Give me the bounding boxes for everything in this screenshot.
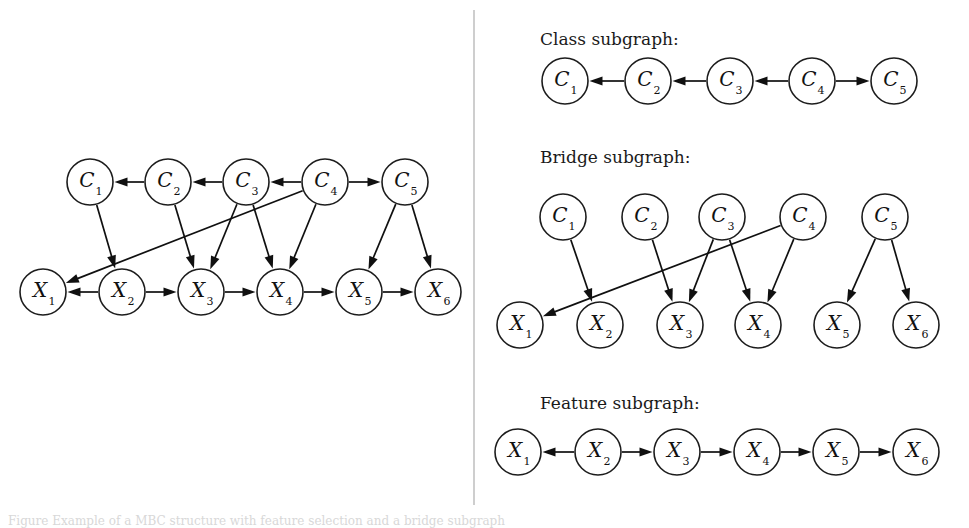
node-label-base: X	[31, 278, 48, 302]
graph-node-x4[interactable]: X4	[734, 429, 780, 475]
graph-node-x6[interactable]: X6	[893, 429, 939, 475]
node-label-base: C	[634, 203, 649, 227]
node-label-base: C	[314, 168, 329, 192]
graph-node-c3[interactable]: C3	[223, 159, 269, 205]
bridge-subgraph: Bridge subgraph:C1C2C3C4C5X1X2X3X4X5X6	[497, 147, 939, 348]
node-label-base: C	[792, 203, 807, 227]
node-label-subscript: 5	[843, 328, 850, 341]
edge-c1-to-x2	[571, 240, 592, 302]
graph-node-c5[interactable]: C5	[862, 194, 908, 240]
edge-c2-to-c1	[590, 77, 625, 86]
node-label-base: X	[665, 438, 682, 462]
node-label-subscript: 1	[96, 185, 103, 198]
feature-subgraph: Feature subgraph:X1X2X3X4X5X6	[495, 393, 939, 475]
graph-node-c5[interactable]: C5	[871, 58, 917, 104]
graph-node-x5[interactable]: X5	[336, 269, 382, 315]
node-label-subscript: 5	[411, 185, 418, 198]
edge-c5-to-x5	[368, 204, 395, 269]
graph-node-c2[interactable]: C2	[622, 194, 668, 240]
graph-node-c1[interactable]: C1	[67, 159, 113, 205]
node-label-subscript: 6	[444, 295, 451, 308]
node-label-subscript: 4	[331, 185, 338, 198]
edge-c4-to-c5	[349, 178, 381, 187]
node-label-base: X	[745, 438, 762, 462]
node-label-base: C	[552, 203, 567, 227]
graph-node-c3[interactable]: C3	[707, 58, 753, 104]
node-label-base: X	[189, 278, 206, 302]
edge-c3-to-x4	[730, 240, 751, 302]
graph-node-c4[interactable]: C4	[789, 58, 835, 104]
node-label-subscript: 1	[526, 328, 533, 341]
left-full-mbc-graph: C1C2C3C4C5X1X2X3X4X5X6	[20, 159, 461, 315]
graph-node-x1[interactable]: X1	[497, 302, 543, 348]
graph-node-x5[interactable]: X5	[814, 302, 860, 348]
node-label-base: C	[554, 67, 569, 91]
node-label-base: C	[637, 67, 652, 91]
edge-x3-to-x4	[225, 288, 256, 297]
graph-node-x4[interactable]: X4	[257, 269, 303, 315]
node-label-base: X	[746, 311, 763, 335]
node-label-subscript: 3	[686, 328, 693, 341]
edge-x4-to-x5	[781, 448, 812, 457]
edge-x2-to-x1	[68, 288, 99, 297]
graph-node-x6[interactable]: X6	[415, 269, 461, 315]
edge-x5-to-x6	[383, 288, 414, 297]
node-label-base: C	[394, 168, 409, 192]
graph-node-x3[interactable]: X3	[657, 302, 703, 348]
figure-caption: Figure Example of a MBC structure with f…	[8, 514, 505, 528]
node-label-subscript: 3	[207, 295, 214, 308]
graph-node-x1[interactable]: X1	[495, 429, 541, 475]
graph-node-c3[interactable]: C3	[699, 194, 745, 240]
edge-c4-to-x4	[289, 204, 316, 269]
node-label-base: C	[235, 168, 250, 192]
edge-x5-to-x6	[860, 448, 892, 457]
graph-node-x3[interactable]: X3	[178, 269, 224, 315]
node-label-subscript: 1	[49, 295, 56, 308]
edge-c4-to-x1	[543, 226, 781, 317]
node-label-subscript: 3	[683, 455, 690, 468]
graph-node-x5[interactable]: X5	[813, 429, 859, 475]
edge-x3-to-x4	[701, 448, 733, 457]
node-label-base: X	[426, 278, 443, 302]
graph-node-x1[interactable]: X1	[20, 269, 66, 315]
graph-node-x2[interactable]: X2	[577, 302, 623, 348]
graph-node-x2[interactable]: X2	[99, 269, 145, 315]
edge-c3-to-c2	[193, 178, 223, 187]
graph-node-c4[interactable]: C4	[302, 159, 348, 205]
graph-node-c1[interactable]: C1	[540, 194, 586, 240]
node-label-base: X	[824, 438, 841, 462]
graph-node-x2[interactable]: X2	[575, 429, 621, 475]
graph-node-x3[interactable]: X3	[654, 429, 700, 475]
node-label-subscript: 5	[365, 295, 372, 308]
node-label-base: C	[719, 67, 734, 91]
edge-c3-to-x3	[210, 204, 237, 269]
graph-node-c4[interactable]: C4	[780, 194, 826, 240]
edge-x4-to-x5	[304, 288, 335, 297]
node-label-subscript: 4	[286, 295, 293, 308]
node-label-base: X	[904, 438, 921, 462]
node-label-subscript: 6	[922, 328, 929, 341]
node-label-subscript: 2	[606, 328, 613, 341]
node-label-base: X	[668, 311, 685, 335]
node-label-base: C	[801, 67, 816, 91]
node-label-base: C	[874, 203, 889, 227]
node-label-subscript: 2	[174, 185, 181, 198]
edge-x2-to-x3	[622, 448, 653, 457]
node-label-subscript: 6	[922, 455, 929, 468]
node-label-subscript: 4	[818, 84, 825, 97]
node-label-subscript: 2	[128, 295, 135, 308]
graph-node-x6[interactable]: X6	[893, 302, 939, 348]
edge-c1-to-x2	[97, 205, 116, 268]
edge-x2-to-x3	[146, 288, 177, 297]
graph-node-c1[interactable]: C1	[542, 58, 588, 104]
graph-node-c5[interactable]: C5	[382, 159, 428, 205]
node-label-subscript: 3	[252, 185, 259, 198]
node-label-subscript: 4	[809, 220, 816, 233]
node-label-subscript: 2	[604, 455, 611, 468]
node-label-subscript: 1	[571, 84, 578, 97]
bridge-subgraph-title: Bridge subgraph:	[540, 147, 691, 167]
node-label-subscript: 4	[764, 328, 771, 341]
graph-node-x4[interactable]: X4	[735, 302, 781, 348]
graph-node-c2[interactable]: C2	[625, 58, 671, 104]
graph-node-c2[interactable]: C2	[145, 159, 191, 205]
